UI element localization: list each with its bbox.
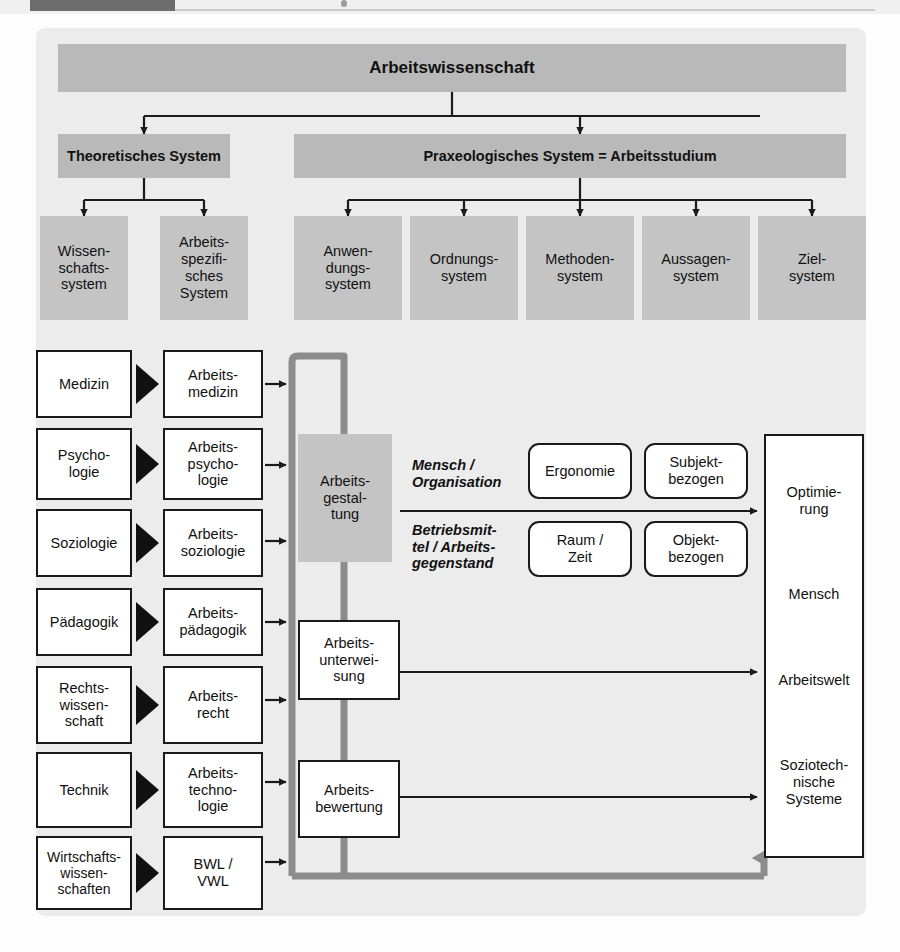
- discipline-applied-arbeitssoziologie: Arbeits- soziologie: [163, 509, 263, 577]
- node-line: Arbeits-: [179, 234, 229, 251]
- node-line: Arbeitswelt: [779, 672, 850, 689]
- node-line: medizin: [188, 384, 238, 401]
- node-line: Mensch /: [412, 457, 474, 474]
- discipline-source-technik: Technik: [36, 752, 132, 828]
- node-line: Wirtschafts-: [47, 849, 121, 865]
- node-line: Organisation: [412, 474, 501, 491]
- scan-header-dot-icon: [341, 0, 347, 7]
- node-line: psycho-: [188, 456, 239, 473]
- node-line: Aussagen-: [661, 251, 730, 268]
- node-line: dungs-: [326, 260, 370, 277]
- node-line: Optimie-: [787, 484, 842, 501]
- node-line: schaft: [65, 713, 104, 730]
- node-line: gegenstand: [412, 555, 493, 572]
- node-line: Rechts-: [59, 680, 109, 697]
- node-line: bewertung: [315, 799, 383, 816]
- node-line: wissen-: [60, 865, 107, 881]
- node-line: Arbeits-: [188, 439, 238, 456]
- root-node-label: Arbeitswissenschaft: [369, 58, 534, 78]
- node-line: system: [789, 268, 835, 285]
- node-line: system: [557, 268, 603, 285]
- node-line: logie: [198, 472, 229, 489]
- core-arbeitsbewertung: Arbeits- bewertung: [298, 760, 400, 838]
- discipline-source-soziologie: Soziologie: [36, 509, 132, 577]
- node-line: Zeit: [568, 549, 592, 566]
- result-item-soziotechnische-systeme: Soziotech- nische Systeme: [770, 757, 858, 807]
- node-line: pädagogik: [180, 622, 247, 639]
- node-line: bezogen: [668, 471, 724, 488]
- discipline-applied-bwl-vwl: BWL / VWL: [163, 836, 263, 910]
- node-line: Mensch: [789, 586, 840, 603]
- result-box: Optimie- rung Mensch Arbeitswelt Soziote…: [764, 434, 864, 858]
- node-arbeitsspezifisches-system: Arbeits- spezifi- sches System: [160, 216, 248, 320]
- node-line: Raum /: [557, 532, 604, 549]
- node-line: sches: [185, 268, 223, 285]
- node-line: system: [325, 276, 371, 293]
- node-line: Arbeits-: [188, 765, 238, 782]
- node-line: nische: [793, 774, 835, 791]
- discipline-applied-arbeitstechnologie: Arbeits- techno- logie: [163, 752, 263, 828]
- scan-header-tab: [30, 0, 175, 11]
- discipline-applied-arbeitsrecht: Arbeits- recht: [163, 666, 263, 744]
- level2-theoretisches-system: Theoretisches System: [58, 134, 230, 178]
- node-line: Technik: [59, 782, 108, 799]
- node-line: system: [61, 276, 107, 293]
- node-line: unterwei-: [319, 652, 379, 669]
- node-aussagensystem: Aussagen- system: [642, 216, 750, 320]
- node-line: Ergonomie: [545, 463, 615, 480]
- node-ordnungssystem: Ordnungs- system: [410, 216, 518, 320]
- node-line: logie: [69, 464, 100, 481]
- node-line: Anwen-: [323, 243, 372, 260]
- level2-praxeologisches-system: Praxeologisches System = Arbeitsstudium: [294, 134, 846, 178]
- discipline-applied-arbeitsmedizin: Arbeits- medizin: [163, 350, 263, 418]
- scan-header-rule: [175, 9, 875, 11]
- node-line: system: [673, 268, 719, 285]
- aspect-label-betriebsmittel-arbeitsgegenstand: Betriebsmit- tel / Arbeits- gegenstand: [412, 516, 528, 578]
- node-line: Arbeits-: [188, 688, 238, 705]
- discipline-source-wirtschaftswissenschaften: Wirtschafts- wissen- schaften: [36, 836, 132, 910]
- node-line: gestal-: [323, 490, 367, 507]
- node-line: recht: [197, 705, 229, 722]
- node-zielsystem: Ziel- system: [758, 216, 866, 320]
- node-line: VWL: [197, 873, 228, 890]
- node-line: BWL /: [194, 856, 233, 873]
- discipline-source-paedagogik: Pädagogik: [36, 588, 132, 656]
- node-line: sung: [333, 668, 364, 685]
- core-arbeitsunterweisung: Arbeits- unterwei- sung: [298, 620, 400, 700]
- aspect-label-mensch-organisation: Mensch / Organisation: [412, 446, 528, 502]
- node-line: wissen-: [59, 697, 108, 714]
- node-line: Arbeits-: [324, 782, 374, 799]
- root-node-arbeitswissenschaft: Arbeitswissenschaft: [58, 44, 846, 92]
- discipline-source-psychologie: Psycho- logie: [36, 428, 132, 500]
- node-line: Arbeits-: [188, 605, 238, 622]
- scan-header-strip: [0, 0, 900, 14]
- node-methodensystem: Methoden- system: [526, 216, 634, 320]
- discipline-source-medizin: Medizin: [36, 350, 132, 418]
- node-line: Soziologie: [51, 535, 118, 552]
- node-line: Psycho-: [58, 447, 110, 464]
- node-line: schafts-: [59, 260, 110, 277]
- discipline-source-rechtswissenschaft: Rechts- wissen- schaft: [36, 666, 132, 744]
- result-item-optimierung: Optimie- rung: [770, 484, 858, 518]
- node-line: system: [441, 268, 487, 285]
- aspect-orientation-subjektbezogen: Subjekt- bezogen: [644, 443, 748, 499]
- level2-praxeologisches-system-label: Praxeologisches System = Arbeitsstudium: [423, 148, 716, 165]
- level2-theoretisches-system-label: Theoretisches System: [67, 148, 221, 165]
- aspect-orientation-objektbezogen: Objekt- bezogen: [644, 521, 748, 577]
- node-line: Betriebsmit-: [412, 522, 497, 539]
- discipline-applied-arbeitspsychologie: Arbeits- psycho- logie: [163, 428, 263, 500]
- node-line: Medizin: [59, 376, 109, 393]
- node-line: Soziotech-: [780, 757, 849, 774]
- node-line: bezogen: [668, 549, 724, 566]
- aspect-field-raum-zeit: Raum / Zeit: [528, 521, 632, 577]
- node-line: System: [180, 285, 228, 302]
- node-line: Arbeits-: [188, 526, 238, 543]
- discipline-applied-arbeitspaedagogik: Arbeits- pädagogik: [163, 588, 263, 656]
- node-line: Ordnungs-: [430, 251, 499, 268]
- node-line: spezifi-: [181, 251, 227, 268]
- node-line: Wissen-: [58, 243, 110, 260]
- node-line: Pädagogik: [50, 614, 119, 631]
- node-line: Arbeits-: [320, 473, 370, 490]
- node-anwendungssystem: Anwen- dungs- system: [294, 216, 402, 320]
- node-line: tung: [331, 506, 359, 523]
